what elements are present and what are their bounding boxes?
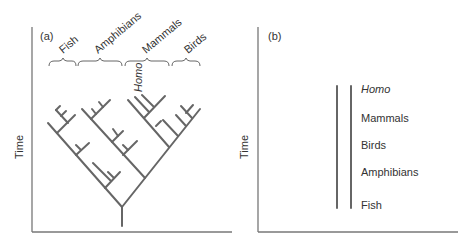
group-label-mammals: Mammals [140, 15, 185, 55]
panel-a-time-label: Time [13, 135, 25, 159]
group-label-birds: Birds [182, 30, 209, 56]
level-fish: Fish [361, 199, 382, 211]
phylogenetic-tree [48, 95, 200, 226]
amph-twig [99, 102, 103, 107]
level-mammals: Mammals [361, 112, 409, 124]
bird-twig [176, 115, 186, 126]
mammal-stem [128, 100, 169, 147]
brace-birds [172, 58, 200, 66]
panel-b-label: (b) [268, 30, 281, 42]
amph-twig [113, 129, 118, 136]
side-twig [76, 145, 81, 150]
brace-amphibians [78, 58, 122, 66]
fish-twig [61, 111, 66, 116]
bird-twig [186, 105, 193, 113]
fish-branch [57, 115, 75, 133]
panel-b: (b) Time Homo Mammals Birds Amphibians F… [238, 27, 458, 232]
panel-a-label: (a) [40, 30, 53, 42]
group-label-amphibians: Amphibians [92, 9, 144, 55]
level-amphibians: Amphibians [361, 166, 419, 178]
panel-b-time-label: Time [238, 135, 250, 159]
figure-canvas: (a) Time Fish Amphibians Mammals Birds H… [0, 0, 463, 245]
panel-a: (a) Time Fish Amphibians Mammals Birds H… [13, 9, 232, 232]
level-homo: Homo [361, 83, 390, 95]
level-birds: Birds [361, 139, 387, 151]
amph-twig [123, 145, 128, 150]
fish-twig [56, 106, 60, 110]
group-label-fish: Fish [57, 33, 81, 56]
homo-label: Homo [132, 63, 144, 92]
side-branch [76, 143, 89, 155]
mammal-twig [156, 121, 161, 126]
side-twig [108, 172, 114, 178]
tree-right-stem [122, 109, 200, 207]
amph-twig [92, 109, 96, 114]
side-branch [105, 172, 120, 188]
tree-left-stem [48, 123, 122, 207]
bird-twig [163, 120, 178, 136]
brace-fish [49, 58, 76, 66]
